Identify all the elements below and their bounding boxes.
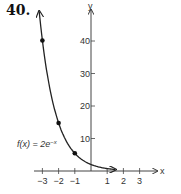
y-tick-label: 20 (80, 101, 90, 111)
function-curve (39, 12, 115, 170)
function-label: f(x) = 2e−x (17, 139, 58, 149)
y-tick-label: 40 (80, 36, 90, 46)
y-tick-label: 30 (80, 69, 90, 79)
data-point (73, 151, 78, 156)
x-tick-label: −1 (70, 176, 80, 186)
x-tick-label: 2 (121, 176, 126, 186)
data-points (40, 38, 77, 155)
data-point (56, 121, 61, 126)
x-axis-label: x (160, 166, 165, 176)
x-tick-label: 1 (105, 176, 110, 186)
x-tick-label: −3 (37, 176, 47, 186)
x-tick-label: 3 (137, 176, 142, 186)
y-tick-label: 10 (80, 134, 90, 144)
data-point (40, 38, 45, 43)
x-tick-label: −2 (53, 176, 63, 186)
function-plot: x y −3−2−1123 10203040 f(x) = 2e−x (0, 0, 181, 194)
y-axis-label: y (88, 1, 93, 11)
y-ticks: 10203040 (80, 36, 95, 144)
